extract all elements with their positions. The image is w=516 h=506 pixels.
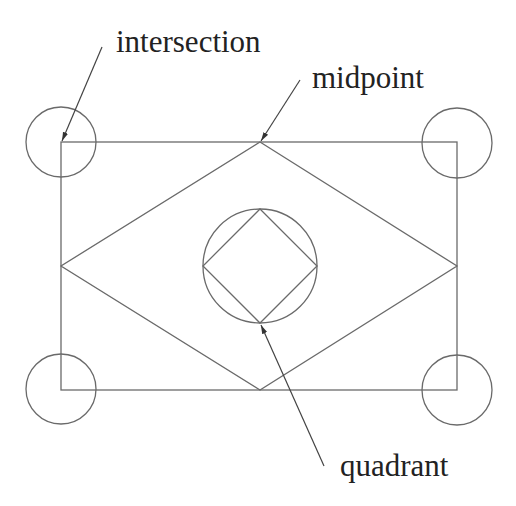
quadrant-label: quadrant <box>340 448 449 483</box>
outer-diamond <box>61 142 457 390</box>
midpoint-arrow-icon <box>261 80 300 141</box>
intersection-label: intersection <box>116 24 261 59</box>
snap-points-diagram: intersection midpoint quadrant <box>0 0 516 506</box>
inner-circle <box>203 209 317 323</box>
outer-rectangle <box>61 142 457 390</box>
midpoint-label: midpoint <box>312 60 424 95</box>
quadrant-arrow-icon <box>261 325 324 466</box>
intersection-arrow-icon <box>62 47 102 141</box>
